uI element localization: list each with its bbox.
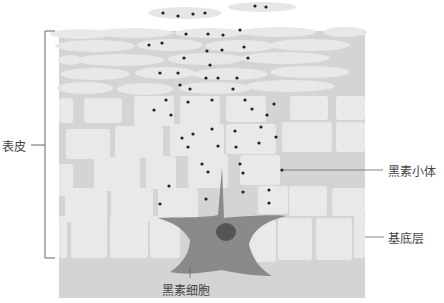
label-basal-layer: 基底层 (388, 229, 424, 246)
label-epidermis: 表皮 (2, 137, 26, 154)
label-melanocyte: 黑素细胞 (162, 281, 210, 298)
melanocyte-nucleus (216, 223, 236, 241)
label-melanosome: 黑素小体 (388, 162, 436, 179)
skin-diagram (0, 0, 444, 303)
epidermis-bracket (45, 31, 55, 258)
shed-keratin-flakes (148, 2, 296, 19)
